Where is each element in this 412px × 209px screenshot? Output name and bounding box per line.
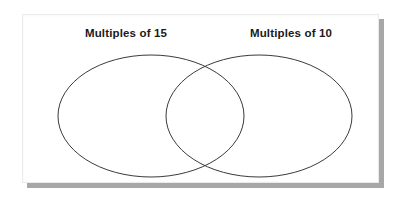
venn-circles: [0, 0, 412, 209]
venn-diagram-figure: Multiples of 15 Multiples of 10: [0, 0, 412, 209]
venn-ellipse-left: [58, 55, 244, 177]
venn-ellipse-right: [166, 55, 352, 177]
